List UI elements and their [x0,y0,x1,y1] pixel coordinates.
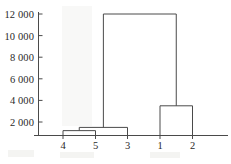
y-tick-label: 10 000 [5,30,34,41]
x-tick-label: 3 [125,140,130,151]
dendrogram-plot [0,0,231,164]
x-tick-label: 2 [190,140,195,151]
axis-lines [34,12,228,136]
y-tick-label: 2 000 [10,117,34,128]
y-tick-label: 8 000 [10,52,34,63]
y-tick-label: 4 000 [10,95,34,106]
x-tick-marks [63,136,193,140]
dendrogram-links [63,14,193,136]
x-tick-label: 1 [157,140,162,151]
x-tick-label: 5 [93,140,98,151]
y-tick-label: 12 000 [5,9,34,20]
dendrogram-figure: 2 0004 0006 0008 00010 00012 000 45312 [0,0,231,164]
y-tick-label: 6 000 [10,73,34,84]
x-tick-label: 4 [60,140,65,151]
y-tick-marks [39,14,43,122]
